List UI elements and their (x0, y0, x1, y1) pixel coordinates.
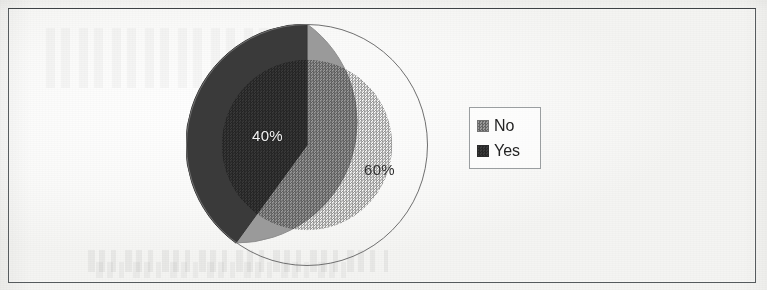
legend-swatch-yes (477, 145, 489, 157)
legend-label-yes: Yes (494, 143, 520, 159)
legend-item-no[interactable]: No (477, 113, 534, 138)
pie-label-no: 60% (364, 161, 395, 178)
chart-plot-area: 60% 40% No Yes (9, 9, 755, 282)
pie-graphic: 60% 40% (186, 24, 428, 266)
pie-chart-figure: 60% 40% No Yes (0, 0, 767, 290)
pie-label-yes: 40% (252, 127, 283, 144)
legend-swatch-no (477, 120, 489, 132)
legend-label-no: No (494, 118, 514, 134)
pie-svg (186, 24, 428, 266)
pie-container: 60% 40% (177, 15, 429, 267)
chart-legend: No Yes (469, 107, 541, 169)
legend-item-yes[interactable]: Yes (477, 138, 534, 163)
